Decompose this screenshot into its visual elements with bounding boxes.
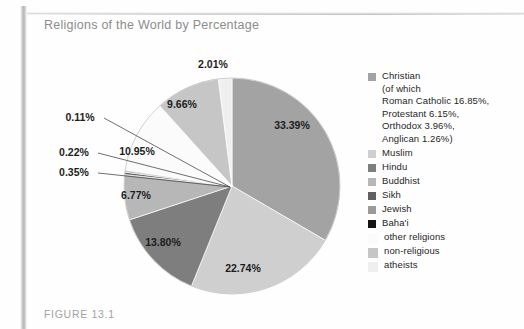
legend-item-label: atheists	[384, 259, 418, 272]
chart-legend: Christian (of which Roman Catholic 16.85…	[368, 70, 520, 273]
legend-swatch-icon	[368, 150, 376, 158]
pie-slice-label: 0.11%	[65, 111, 95, 123]
pie-slice-label: 13.80%	[145, 236, 181, 248]
legend-item: non-religious	[368, 245, 520, 258]
pie-slice-label: 6.77%	[121, 189, 151, 201]
legend-swatch-icon	[368, 206, 376, 214]
legend-item: Sikh	[368, 189, 520, 202]
legend-item: atheists	[368, 259, 520, 272]
legend-swatch-icon	[368, 192, 376, 200]
legend-swatch-icon	[368, 248, 378, 258]
legend-item: other religions	[368, 231, 520, 244]
legend-item: Christian (of which Roman Catholic 16.85…	[368, 70, 520, 146]
pie-slice-label: 0.35%	[59, 166, 89, 178]
legend-item-label: Buddhist	[382, 175, 420, 188]
pie-slice-label: 33.39%	[274, 119, 310, 131]
legend-item-label: Sikh	[382, 189, 401, 202]
legend-item-label: Christian (of which Roman Catholic 16.85…	[382, 70, 489, 146]
legend-swatch-icon	[368, 73, 376, 81]
pie-slice-label: 2.01%	[198, 58, 228, 70]
legend-swatch-icon	[368, 234, 378, 244]
legend-item-label: Muslim	[382, 147, 413, 160]
legend-item: Jewish	[368, 203, 520, 216]
legend-item-label: Hindu	[382, 161, 407, 174]
legend-item: Buddhist	[368, 175, 520, 188]
legend-swatch-icon	[368, 164, 376, 172]
legend-item-label: other religions	[384, 231, 445, 244]
pie-slice-label: 0.22%	[59, 146, 89, 158]
legend-swatch-icon	[368, 262, 378, 272]
legend-item-label: Baha'i	[382, 217, 409, 230]
pie-slice-label: 22.74%	[225, 262, 261, 274]
legend-swatch-icon	[368, 220, 376, 228]
legend-item: Muslim	[368, 147, 520, 160]
legend-item: Hindu	[368, 161, 520, 174]
pie-slice-label: 9.66%	[167, 98, 197, 110]
pie-slice-label: 10.95%	[119, 145, 155, 157]
legend-item-label: non-religious	[384, 245, 440, 258]
legend-swatch-icon	[368, 178, 376, 186]
figure-caption: FIGURE 13.1	[44, 308, 115, 320]
legend-item-label: Jewish	[382, 203, 412, 216]
legend-item: Baha'i	[368, 217, 520, 230]
